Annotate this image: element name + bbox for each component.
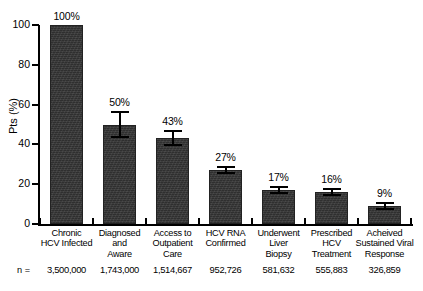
bar[interactable] — [103, 125, 137, 225]
y-axis-tick — [32, 64, 39, 66]
y-axis-title: Pts (%) — [7, 86, 19, 146]
y-axis-tick — [32, 183, 39, 185]
bar-value-label: 9% — [358, 188, 411, 199]
bar[interactable] — [50, 25, 84, 224]
error-bar — [172, 130, 174, 146]
bar[interactable] — [209, 170, 243, 224]
bar-group: 27% — [199, 25, 252, 224]
y-axis-tick-label: 20 — [0, 178, 30, 188]
bar[interactable] — [262, 190, 296, 224]
bar[interactable] — [156, 138, 190, 224]
error-bar-cap-bottom — [217, 172, 235, 174]
bar-chart-figure: 020406080100 Pts (%) 100%50%43%27%17%16%… — [0, 0, 423, 291]
sample-size-prefix: n = — [17, 264, 30, 276]
y-axis-tick — [32, 143, 39, 145]
bar-value-label: 16% — [305, 174, 358, 185]
sample-size-row: n = 3,500,0001,743,0001,514,667952,72658… — [0, 264, 423, 280]
error-bar — [278, 186, 280, 194]
y-axis-tick-label: 100 — [0, 19, 30, 29]
y-axis-tick-label: 80 — [0, 59, 30, 69]
y-axis-tick-label: 0 — [0, 218, 30, 228]
error-bar — [119, 111, 121, 139]
y-axis-tick — [32, 24, 39, 26]
error-bar-cap-bottom — [270, 192, 288, 194]
error-bar — [331, 188, 333, 196]
bar-value-label: 100% — [40, 11, 93, 22]
error-bar-cap-top — [111, 111, 129, 113]
error-bar-cap-top — [270, 186, 288, 188]
error-bar-cap-top — [376, 202, 394, 204]
bar-group: 17% — [252, 25, 305, 224]
bar-group: 16% — [305, 25, 358, 224]
error-bar — [225, 166, 227, 174]
bar-group: 50% — [93, 25, 146, 224]
error-bar-cap-bottom — [111, 136, 129, 138]
bar-value-label: 27% — [199, 152, 252, 163]
bar[interactable] — [315, 192, 349, 224]
x-axis-category-label: AcheivedSustained ViralResponse — [352, 228, 417, 259]
sample-size-value: 326,859 — [350, 264, 419, 276]
y-axis-tick — [32, 104, 39, 106]
error-bar-cap-bottom — [164, 144, 182, 146]
bar-group: 9% — [358, 25, 411, 224]
error-bar-cap-top — [164, 130, 182, 132]
error-bar-cap-bottom — [376, 208, 394, 210]
error-bar-cap-top — [323, 188, 341, 190]
error-bar-cap-top — [217, 166, 235, 168]
error-bar-cap-bottom — [323, 194, 341, 196]
bar-value-label: 43% — [146, 116, 199, 127]
bar-group: 43% — [146, 25, 199, 224]
error-bar — [384, 202, 386, 210]
bar-group: 100% — [40, 25, 93, 224]
bar-value-label: 50% — [93, 97, 146, 108]
bar-value-label: 17% — [252, 172, 305, 183]
plot-area: 100%50%43%27%17%16%9% — [40, 25, 411, 224]
